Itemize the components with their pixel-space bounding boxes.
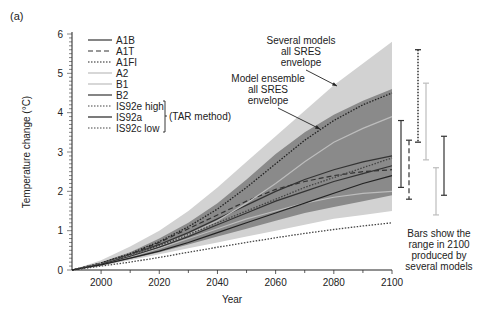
- legend-label: A1T: [116, 46, 134, 57]
- annotation-several-models: Several models: [267, 35, 336, 46]
- legend-label: A2: [116, 68, 129, 79]
- y-tick-label: 6: [57, 29, 63, 40]
- y-tick-label: 5: [57, 68, 63, 79]
- x-tick-label: 2100: [381, 277, 404, 288]
- y-tick-label: 0: [57, 265, 63, 276]
- bars-note: Bars show the range in 2100 produced by …: [393, 228, 485, 272]
- legend-label: A1B: [116, 35, 135, 46]
- bars-note-line: Bars show the: [393, 228, 485, 239]
- legend-label: B2: [116, 90, 129, 101]
- x-tick-label: 2040: [206, 277, 229, 288]
- panel-label: (a): [10, 10, 23, 22]
- annotation-several-models: envelope: [281, 57, 322, 68]
- annotation-model-ensemble: Model ensemble: [231, 73, 305, 84]
- legend-label: IS92c low: [116, 123, 160, 134]
- legend-label: B1: [116, 79, 129, 90]
- legend: A1BA1TA1FIA2B1B2IS92e highIS92aIS92c low…: [88, 35, 231, 134]
- annotation-model-ensemble: all SRES: [248, 84, 288, 95]
- bars-note-line: several models: [393, 261, 485, 272]
- y-axis-label: Temperature change (°C): [21, 96, 32, 208]
- range-bars-2100: [398, 50, 447, 215]
- legend-label: IS92e high: [116, 101, 164, 112]
- bars-note-line: range in 2100: [393, 239, 485, 250]
- bars-note-line: produced by: [393, 250, 485, 261]
- y-tick-label: 1: [57, 225, 63, 236]
- x-tick-label: 2060: [265, 277, 288, 288]
- tar-method-label: (TAR method): [169, 111, 231, 122]
- annotation-several-models: all SRES: [281, 46, 321, 57]
- x-tick-label: 2000: [90, 277, 113, 288]
- arrow-icon: [306, 70, 337, 86]
- x-tick-label: 2080: [323, 277, 346, 288]
- legend-label: IS92a: [116, 112, 143, 123]
- x-axis-label: Year: [222, 294, 243, 305]
- x-tick-label: 2020: [148, 277, 171, 288]
- legend-label: A1FI: [116, 57, 137, 68]
- y-tick-label: 2: [57, 186, 63, 197]
- annotation-model-ensemble: envelope: [248, 95, 289, 106]
- y-tick-label: 3: [57, 147, 63, 158]
- y-tick-label: 4: [57, 107, 63, 118]
